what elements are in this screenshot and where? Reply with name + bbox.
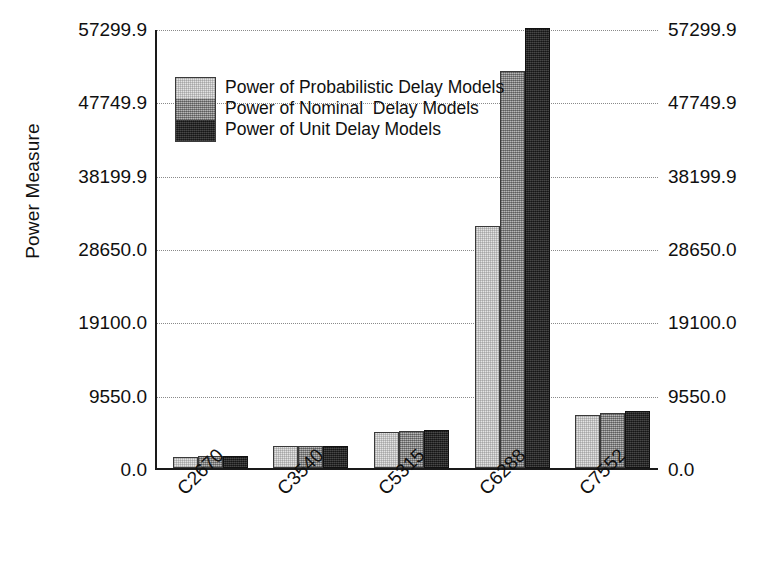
legend-entry-label: Power of Probabilistic Delay Models	[225, 77, 504, 98]
y-tick-label-left: 0.0	[121, 460, 147, 479]
legend: Power of Probabilistic Delay ModelsPower…	[175, 77, 504, 142]
bar-chart-figure: Power Measure 0.09550.019100.028650.0381…	[0, 0, 771, 562]
y-tick-label-right: 19100.0	[668, 313, 737, 332]
bar	[525, 28, 550, 468]
y-tick-label-right: 0.0	[668, 460, 694, 479]
bar	[323, 446, 348, 468]
legend-swatch	[176, 99, 215, 120]
bar	[575, 415, 600, 468]
legend-swatch	[176, 120, 215, 141]
y-tick-label-left: 28650.0	[78, 240, 147, 259]
legend-labels: Power of Probabilistic Delay ModelsPower…	[225, 77, 504, 142]
bar	[475, 226, 500, 468]
y-axis-left-tick-labels: 0.09550.019100.028650.038199.947749.9572…	[0, 0, 147, 562]
y-axis-right-tick-labels: 0.09550.019100.028650.038199.947749.9572…	[668, 0, 771, 562]
y-tick-label-right: 47749.9	[668, 93, 737, 112]
y-tick-label-left: 38199.9	[78, 167, 147, 186]
y-tick-label-left: 57299.9	[78, 20, 147, 39]
bar	[424, 430, 449, 468]
bar-group	[575, 30, 650, 468]
y-tick-label-right: 57299.9	[668, 20, 737, 39]
y-tick-label-left: 47749.9	[78, 93, 147, 112]
legend-entry-label: Power of Unit Delay Models	[225, 119, 504, 140]
y-tick-label-right: 9550.0	[668, 387, 726, 406]
legend-swatches	[175, 77, 216, 142]
y-tick-label-left: 9550.0	[89, 387, 147, 406]
y-tick-label-right: 28650.0	[668, 240, 737, 259]
y-tick-label-left: 19100.0	[78, 313, 147, 332]
legend-entry-label: Power of Nominal Delay Models	[225, 98, 504, 119]
legend-swatch	[176, 78, 215, 99]
y-tick-label-right: 38199.9	[668, 167, 737, 186]
